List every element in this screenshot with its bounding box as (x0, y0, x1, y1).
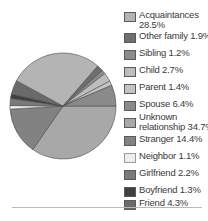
legend-item-girlfriend: Girlfriend 2.2% (124, 168, 199, 180)
swatch-sibling (124, 50, 136, 60)
legend-label: Sibling 1.2% (139, 48, 189, 58)
swatch-neighbor (124, 153, 136, 163)
legend-label: Parent 1.4% (139, 82, 189, 92)
bottom-divider (12, 207, 202, 208)
legend-item-friend: Friend 4.3% (124, 198, 188, 210)
swatch-boyfriend (124, 187, 136, 197)
legend-item-stranger: Stranger 14.4% (124, 134, 202, 146)
swatch-child (124, 67, 136, 77)
swatch-spouse (124, 101, 136, 111)
legend-item-child: Child 2.7% (124, 65, 183, 77)
swatch-other-family (124, 33, 136, 43)
legend-item-acquaintances: Acquaintances28.5% (124, 10, 199, 30)
swatch-parent (124, 84, 136, 94)
legend-item-unknown-relationship: Unknownrelationship 34.7% (124, 112, 208, 132)
legend-label: Acquaintances28.5% (139, 10, 199, 30)
swatch-friend (124, 200, 136, 210)
legend-label: Unknownrelationship 34.7% (139, 112, 208, 132)
pie-chart (0, 0, 124, 170)
legend-item-boyfriend: Boyfriend 1.3% (124, 185, 201, 197)
legend-label: Other family 1.9% (139, 31, 208, 41)
legend-label: Girlfriend 2.2% (139, 168, 199, 178)
legend-label: Child 2.7% (139, 65, 183, 75)
legend-label: Spouse 6.4% (139, 99, 193, 109)
legend-label: Neighbor 1.1% (139, 151, 199, 161)
swatch-stranger (124, 136, 136, 146)
legend-item-neighbor: Neighbor 1.1% (124, 151, 199, 163)
legend-item-spouse: Spouse 6.4% (124, 99, 193, 111)
legend-item-parent: Parent 1.4% (124, 82, 189, 94)
swatch-unknown-relationship (124, 118, 136, 128)
legend-item-sibling: Sibling 1.2% (124, 48, 189, 60)
swatch-acquaintances (124, 12, 136, 22)
swatch-girlfriend (124, 170, 136, 180)
legend-item-other-family: Other family 1.9% (124, 31, 208, 43)
legend-label: Boyfriend 1.3% (139, 185, 201, 195)
legend-label: Stranger 14.4% (139, 134, 202, 144)
